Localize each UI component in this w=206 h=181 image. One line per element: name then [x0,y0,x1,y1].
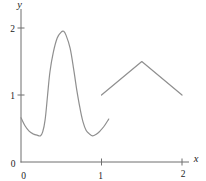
x-axis-label: x [193,153,199,164]
tick-labels: 2 1 0 0 1 2 [10,24,185,181]
axes [21,9,190,163]
tick-marks [18,28,183,166]
plot-svg: 2 1 0 0 1 2 y x [0,0,206,181]
function-plot-figure: 2 1 0 0 1 2 y x [0,0,206,181]
curves [21,31,182,136]
narrow-peak-curve-path [21,31,109,136]
x-tick-label-1: 1 [98,171,103,181]
y-tick-label-0: 0 [11,159,16,169]
y-tick-label-2: 2 [10,24,15,34]
x-tick-label-0: 0 [21,171,26,181]
axis-labels: y x [16,0,199,164]
y-tick-label-1: 1 [10,91,15,101]
y-axis-label: y [16,0,22,10]
triangle-segment-path [102,62,183,96]
x-tick-label-2: 2 [181,169,186,179]
